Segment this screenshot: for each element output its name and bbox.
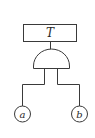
connector-gate-to-a	[23, 69, 45, 107]
basic-event-b-label: b	[76, 109, 82, 120]
and-gate-icon	[34, 49, 70, 68]
gate-input-connectors	[23, 69, 80, 107]
top-event: T	[24, 25, 77, 42]
fault-tree-diagram: T a b	[0, 0, 95, 138]
basic-event-a-label: a	[20, 109, 26, 120]
basic-event-a: a	[15, 106, 31, 122]
basic-event-b: b	[72, 106, 88, 122]
top-event-label: T	[46, 26, 55, 40]
connector-gate-to-b	[58, 69, 80, 107]
